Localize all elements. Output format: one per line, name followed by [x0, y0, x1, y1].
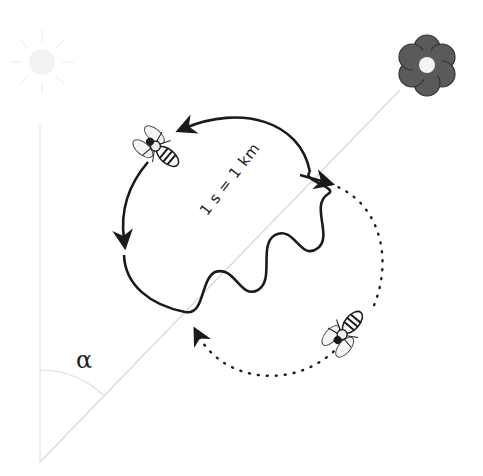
sun-icon	[10, 30, 74, 94]
angle-arc	[40, 370, 103, 395]
bee-icon	[318, 303, 373, 360]
return-loop-left-lower	[124, 255, 185, 312]
return-loop-bottom	[198, 335, 340, 376]
bee-icon	[130, 122, 187, 177]
flower-icon	[399, 35, 455, 96]
waggle-dance-diagram	[0, 0, 483, 476]
direction-line	[40, 90, 400, 462]
return-loop-left-upper	[123, 162, 148, 240]
angle-label: α	[76, 346, 92, 374]
return-loop-right	[330, 184, 383, 310]
